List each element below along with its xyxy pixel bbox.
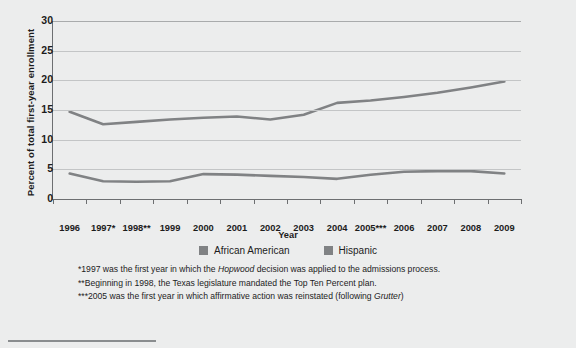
line-african-american: [70, 171, 505, 182]
footnotes: *1997 was the first year in which the Ho…: [78, 263, 558, 304]
plot-area: 19961997*1998**1999200020012002200320042…: [53, 21, 521, 199]
x-tick-11: [421, 199, 422, 204]
legend-swatch-african-american: [199, 246, 208, 255]
y-axis-label-20: 20: [27, 73, 53, 85]
x-tick-6: [254, 199, 255, 204]
legend-label-hispanic: Hispanic: [339, 245, 377, 256]
gridline-20: [53, 80, 521, 81]
gridline-30: [53, 21, 521, 22]
x-tick-1: [86, 199, 87, 204]
x-tick-4: [187, 199, 188, 204]
x-tick-10: [387, 199, 388, 204]
chart-figure: Percent of total first-year enrollment 1…: [0, 0, 576, 348]
legend-item-hispanic: Hispanic: [324, 245, 377, 256]
gridline-5: [53, 169, 521, 170]
x-tick-14: [521, 199, 522, 204]
gridline-25: [53, 51, 521, 52]
legend-item-african-american: African American: [199, 245, 290, 256]
x-tick-8: [320, 199, 321, 204]
x-axis-title: Year: [0, 230, 576, 240]
x-tick-5: [220, 199, 221, 204]
line-hispanic: [70, 82, 505, 125]
footnote-1: *1997 was the first year in which the Ho…: [78, 263, 558, 277]
x-tick-13: [488, 199, 489, 204]
x-tick-9: [354, 199, 355, 204]
legend-swatch-hispanic: [324, 246, 333, 255]
y-axis-label-15: 15: [27, 103, 53, 115]
x-tick-0: [53, 199, 54, 204]
gridline-15: [53, 110, 521, 111]
legend: African American Hispanic: [0, 245, 576, 256]
y-axis-label-10: 10: [27, 133, 53, 145]
legend-label-african-american: African American: [214, 245, 290, 256]
y-axis-label-30: 30: [27, 14, 53, 26]
x-tick-7: [287, 199, 288, 204]
x-tick-3: [153, 199, 154, 204]
bottom-rule: [8, 340, 156, 342]
x-tick-2: [120, 199, 121, 204]
y-axis-label-5: 5: [27, 162, 53, 174]
gridline-10: [53, 140, 521, 141]
y-axis-label-25: 25: [27, 44, 53, 56]
y-axis-label-0: 0: [27, 192, 53, 204]
footnote-3: ***2005 was the first year in which affi…: [78, 290, 558, 304]
x-tick-12: [454, 199, 455, 204]
footnote-2: **Beginning in 1998, the Texas legislatu…: [78, 277, 558, 291]
